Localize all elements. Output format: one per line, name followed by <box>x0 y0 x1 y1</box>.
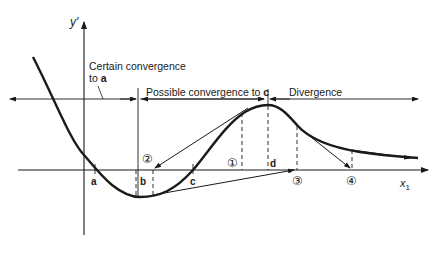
point-a-label: a <box>91 176 97 187</box>
marker-1: ① <box>227 156 238 170</box>
newton-convergence-diagram: y' x1 Certain convergence to a Possible … <box>0 0 444 253</box>
tangent-4-diverge <box>352 150 410 158</box>
x-axis-label: x1 <box>399 177 411 192</box>
point-b-label: b <box>140 176 146 187</box>
point-c-label: c <box>190 176 196 187</box>
certain-leader-line <box>98 86 103 99</box>
tangent-2-to-3 <box>153 170 294 195</box>
certain-convergence-label: Certain convergence <box>89 60 186 72</box>
y-axis-label: y' <box>69 15 79 29</box>
possible-convergence-label: Possible convergence to c <box>146 86 269 98</box>
certain-convergence-label-2: to a <box>89 72 107 84</box>
marker-2: ② <box>142 152 153 166</box>
tangent-3-to-4 <box>297 126 350 168</box>
divergence-label: Divergence <box>289 86 342 98</box>
marker-3: ③ <box>292 174 303 188</box>
marker-4: ④ <box>346 174 357 188</box>
point-d-label: d <box>270 158 276 169</box>
